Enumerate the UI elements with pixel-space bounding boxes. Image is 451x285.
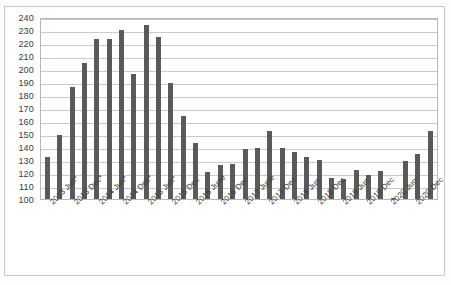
y-axis-tick-label: 160 <box>18 117 34 127</box>
y-axis-tick-label: 120 <box>18 169 34 179</box>
chart-figure: 2402302202102001901801701601501401301201… <box>0 0 451 285</box>
bar <box>415 154 420 200</box>
y-axis-tick-label: 110 <box>19 182 34 192</box>
bar-series <box>41 19 437 199</box>
y-axis-tick-label: 140 <box>18 143 34 153</box>
y-axis-tick-label: 130 <box>18 156 34 166</box>
bar <box>131 74 136 199</box>
bar <box>193 143 198 199</box>
y-axis-tick-label: 240 <box>18 13 34 23</box>
bar <box>45 157 50 199</box>
bar <box>267 131 272 199</box>
y-axis-tick-label: 210 <box>18 52 34 62</box>
bar <box>107 39 112 199</box>
y-axis-tick-label: 230 <box>18 26 34 36</box>
y-axis-tick-label: 200 <box>18 65 34 75</box>
y-axis-tick-label: 170 <box>18 104 34 114</box>
y-axis-tick-label: 100 <box>18 195 34 205</box>
y-axis-tick-label: 190 <box>18 78 34 88</box>
bar <box>156 37 161 200</box>
y-axis-tick-label: 180 <box>18 91 34 101</box>
bar <box>82 63 87 200</box>
x-axis-tick-labels: 2013 Jun*2013 Dec*2014 Jun*2014 Dec*2015… <box>40 200 438 274</box>
y-axis-tick-label: 220 <box>18 39 34 49</box>
y-axis-tick-label: 150 <box>18 130 34 140</box>
y-axis-tick-labels: 2402302202102001901801701601501401301201… <box>0 18 38 200</box>
